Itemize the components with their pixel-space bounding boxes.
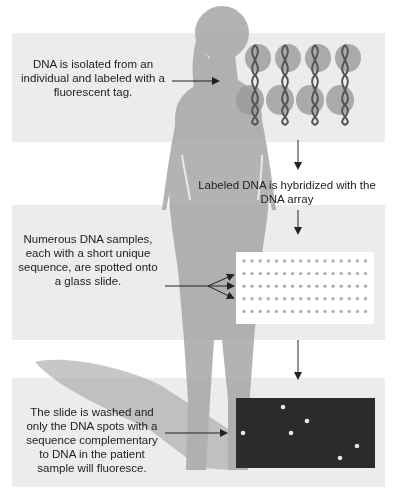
caption-hybridize: Labeled DNA is hybridized with the DNA a… — [192, 178, 382, 206]
caption-spot: Numerous DNA samples, each with a short … — [18, 232, 158, 288]
caption-isolate: DNA is isolated from an individual and l… — [18, 57, 168, 99]
caption-wash: The slide is washed and only the DNA spo… — [22, 405, 162, 475]
